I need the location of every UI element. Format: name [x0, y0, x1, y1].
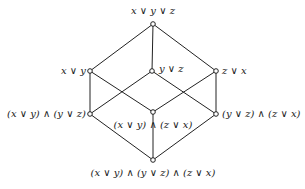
- node-label-bottom: (x ∨ y) ∧ (y ∨ z) ∧ (z ∨ x): [91, 167, 216, 179]
- lattice-edges: [0, 0, 305, 189]
- node-top-icon: [151, 22, 156, 27]
- node-label-top: x ∨ y ∨ z: [131, 5, 175, 17]
- node-label-yz: y ∨ z: [159, 63, 184, 75]
- edge-top-xy: [90, 24, 153, 71]
- node-label-yz_zx: (y ∨ z) ∧ (z ∨ x): [222, 108, 300, 120]
- node-yz-icon: [150, 69, 155, 74]
- node-label-xy_zx: (x ∨ y) ∧ (z ∨ x): [114, 119, 193, 131]
- node-yz_zx-icon: [214, 112, 219, 117]
- node-xy_yz-icon: [88, 112, 93, 117]
- node-zx-icon: [214, 69, 219, 74]
- node-label-zx: z ∨ x: [222, 65, 247, 77]
- node-xy-icon: [88, 69, 93, 74]
- node-label-xy: x ∨ y: [61, 65, 86, 77]
- edge-top-yz: [152, 24, 153, 71]
- lattice-diagram: x ∨ y ∨ zx ∨ yy ∨ zz ∨ x(x ∨ y) ∧ (y ∨ z…: [0, 0, 305, 189]
- node-bottom-icon: [151, 158, 156, 163]
- node-label-xy_yz: (x ∨ y) ∧ (y ∨ z): [7, 108, 86, 120]
- node-xy_zx-icon: [151, 110, 156, 115]
- edge-zx-xy_zx: [153, 71, 216, 112]
